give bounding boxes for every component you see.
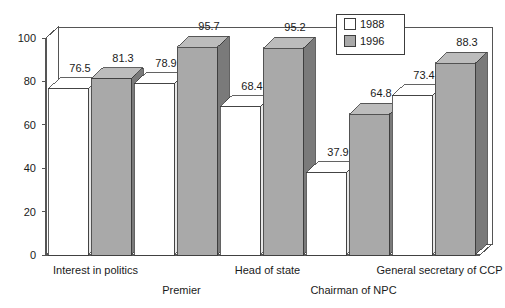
- y-axis-tick-label-20: 20: [24, 206, 36, 218]
- bar-chart: 76.581.378.995.768.495.237.964.873.488.3…: [0, 0, 505, 308]
- bar-front-face: [306, 173, 346, 255]
- chart-canvas: 76.581.378.995.768.495.237.964.873.488.3…: [0, 0, 505, 308]
- value-label-1996-chairman-of-npc: 64.8: [370, 87, 391, 99]
- value-label-1988-interest-in-politics: 76.5: [69, 62, 90, 74]
- x-axis-label-interest-in-politics: Interest in politics: [53, 264, 138, 276]
- y-axis-tick-label-0: 0: [30, 249, 36, 261]
- x-axis-label-chairman-of-npc: Chairman of NPC: [310, 284, 396, 296]
- legend-swatch-1988: [344, 18, 355, 29]
- legend-label-1988: 1988: [360, 18, 384, 30]
- bar-1996-general-secretary-of-ccp: [435, 52, 487, 255]
- bar-side-face: [475, 52, 487, 255]
- x-axis-label-general-secretary-of-ccp: General secretary of CCP: [377, 264, 503, 276]
- bar-front-face: [220, 107, 260, 255]
- bar-front-face: [263, 48, 303, 255]
- value-label-1996-head-of-state: 95.2: [284, 21, 305, 33]
- value-label-1996-premier: 95.7: [198, 20, 219, 32]
- bar-front-face: [177, 47, 217, 255]
- bar-front-face: [349, 114, 389, 255]
- y-axis-tick-label-60: 60: [24, 119, 36, 131]
- bar-front-face: [48, 89, 88, 255]
- value-label-1988-general-secretary-of-ccp: 73.4: [413, 69, 434, 81]
- bar-front-face: [392, 96, 432, 255]
- y-axis-tick-label-80: 80: [24, 75, 36, 87]
- bar-front-face: [435, 63, 475, 255]
- value-label-1988-premier: 78.9: [155, 57, 176, 69]
- y-axis-tick-label-100: 100: [18, 32, 36, 44]
- legend-swatch-1996: [344, 35, 355, 46]
- y-axis-tick-label-40: 40: [24, 162, 36, 174]
- value-label-1988-head-of-state: 68.4: [241, 80, 262, 92]
- x-axis-label-premier: Premier: [162, 284, 201, 296]
- value-label-1996-general-secretary-of-ccp: 88.3: [456, 36, 477, 48]
- value-label-1996-interest-in-politics: 81.3: [112, 52, 133, 64]
- legend: 19881996: [336, 14, 404, 54]
- bar-front-face: [134, 84, 174, 255]
- x-axis-label-head-of-state: Head of state: [235, 264, 300, 276]
- value-label-1988-chairman-of-npc: 37.9: [327, 146, 348, 158]
- bar-front-face: [91, 79, 131, 255]
- legend-label-1996: 1996: [360, 35, 384, 47]
